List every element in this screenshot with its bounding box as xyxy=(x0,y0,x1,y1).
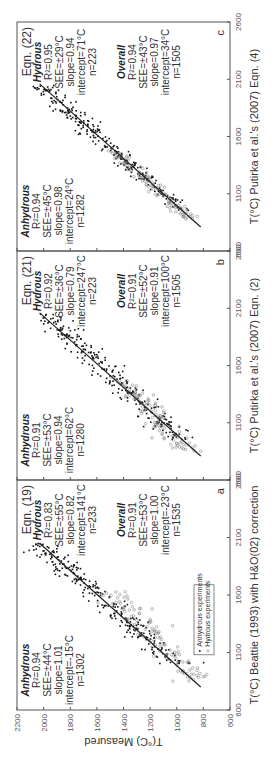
data-point-anhydrous xyxy=(92,365,94,367)
y-axis: 6008001000120014001600180020002200 xyxy=(13,713,235,731)
data-point-anhydrous xyxy=(80,122,82,124)
data-point-hydrous xyxy=(173,651,176,654)
data-point-anhydrous xyxy=(70,330,72,332)
data-point-anhydrous xyxy=(117,606,119,608)
data-point-anhydrous xyxy=(100,121,102,123)
data-point-anhydrous xyxy=(192,437,194,439)
data-point-anhydrous xyxy=(67,117,69,119)
data-point-hydrous xyxy=(163,427,166,430)
data-point-anhydrous xyxy=(159,663,161,665)
data-point-anhydrous xyxy=(75,130,77,132)
data-point-anhydrous xyxy=(86,345,88,347)
data-point-anhydrous xyxy=(76,569,78,571)
data-point-anhydrous xyxy=(162,190,164,192)
data-point-anhydrous xyxy=(37,87,39,89)
data-point-anhydrous xyxy=(57,556,59,558)
data-point-anhydrous xyxy=(90,345,92,347)
data-point-anhydrous xyxy=(122,377,124,379)
data-point-hydrous xyxy=(133,609,136,612)
data-point-anhydrous xyxy=(144,400,146,402)
data-point-hydrous xyxy=(163,186,166,189)
stats-anhydrous-r2: R²=0.94 xyxy=(31,193,42,229)
data-point-anhydrous xyxy=(64,348,66,350)
data-point-hydrous xyxy=(128,156,131,159)
stats-overall-intercept: intercept=100°C xyxy=(160,255,171,327)
data-point-anhydrous xyxy=(83,348,85,350)
figure: 6008001000120014001600180020002200 T(°C)… xyxy=(0,0,277,758)
data-point-anhydrous xyxy=(43,94,45,96)
data-point-anhydrous xyxy=(47,86,49,88)
data-point-anhydrous xyxy=(100,375,102,377)
y-tick-label: 1800 xyxy=(66,713,75,731)
data-point-anhydrous xyxy=(112,392,114,394)
x-tick-label: 2100 xyxy=(234,528,243,546)
data-point-hydrous xyxy=(166,205,169,208)
data-point-hydrous xyxy=(177,650,180,653)
data-point-hydrous xyxy=(178,446,181,449)
stats-hydrous-r2: R²=0.83 xyxy=(43,502,54,538)
data-point-anhydrous xyxy=(112,380,114,382)
data-point-anhydrous xyxy=(53,552,55,554)
data-point-anhydrous xyxy=(91,355,93,357)
data-point-hydrous xyxy=(158,429,161,432)
data-point-anhydrous xyxy=(92,586,94,588)
stats-overall-title: Overall xyxy=(116,45,127,79)
data-point-anhydrous xyxy=(95,587,97,589)
data-point-anhydrous xyxy=(155,180,157,182)
data-point-anhydrous xyxy=(121,613,123,615)
data-point-hydrous xyxy=(191,667,194,670)
data-point-anhydrous xyxy=(156,656,158,658)
data-point-anhydrous xyxy=(72,337,74,339)
data-point-anhydrous xyxy=(47,546,49,548)
data-point-hydrous xyxy=(184,205,187,208)
data-point-hydrous xyxy=(172,680,175,683)
data-point-anhydrous xyxy=(141,649,143,651)
data-point-anhydrous xyxy=(55,93,57,95)
data-point-anhydrous xyxy=(61,111,63,113)
data-point-anhydrous xyxy=(82,357,84,359)
data-point-anhydrous xyxy=(99,612,101,614)
data-point-anhydrous xyxy=(95,357,97,359)
data-point-anhydrous xyxy=(70,351,72,353)
data-point-anhydrous xyxy=(125,169,127,171)
data-point-anhydrous xyxy=(100,361,102,363)
data-point-anhydrous xyxy=(106,368,108,370)
data-point-anhydrous xyxy=(126,631,128,633)
data-point-anhydrous xyxy=(90,136,92,138)
data-point-anhydrous xyxy=(143,426,145,428)
data-point-anhydrous xyxy=(56,568,58,570)
data-point-anhydrous xyxy=(170,416,172,418)
data-point-hydrous xyxy=(178,653,181,656)
stats-anhydrous-intercept: intercept=62°C xyxy=(64,407,75,474)
stats-anhydrous-see: SEE=±53°C xyxy=(42,413,53,467)
data-point-anhydrous xyxy=(88,600,90,602)
data-point-hydrous xyxy=(144,628,147,631)
data-point-anhydrous xyxy=(175,198,177,200)
data-point-hydrous xyxy=(192,673,195,676)
data-point-anhydrous xyxy=(50,97,52,99)
data-point-anhydrous xyxy=(72,106,74,108)
data-point-hydrous xyxy=(131,606,134,609)
data-point-anhydrous xyxy=(153,407,155,409)
data-point-hydrous xyxy=(151,627,154,630)
data-point-anhydrous xyxy=(39,556,41,558)
data-point-anhydrous xyxy=(70,337,72,339)
x-tick-label: 600 xyxy=(234,473,243,487)
data-point-anhydrous xyxy=(146,413,148,415)
data-point-anhydrous xyxy=(133,618,135,620)
stats-hydrous-title: Hydrous xyxy=(32,270,43,311)
data-point-hydrous xyxy=(135,385,138,388)
x-axis-title: T(°C) Putirka et al.'s (2007) Eqn. (2) xyxy=(248,278,260,453)
data-point-anhydrous xyxy=(70,115,72,117)
data-point-anhydrous xyxy=(164,418,166,420)
y-tick-label: 2200 xyxy=(13,713,22,731)
data-point-anhydrous xyxy=(65,574,67,576)
data-point-anhydrous xyxy=(79,132,81,134)
data-point-anhydrous xyxy=(60,327,62,329)
data-point-anhydrous xyxy=(98,592,100,594)
data-point-anhydrous xyxy=(40,320,42,322)
y-tick-label: 2000 xyxy=(40,713,49,731)
data-point-hydrous xyxy=(127,598,130,601)
data-point-hydrous xyxy=(124,590,127,593)
data-point-anhydrous xyxy=(55,108,57,110)
